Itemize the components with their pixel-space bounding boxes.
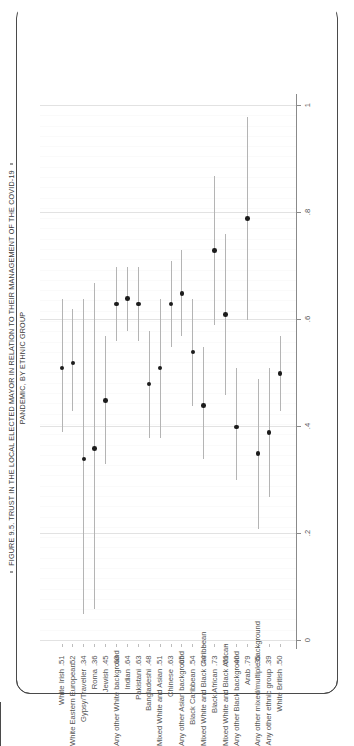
chart-category-value-label: .63 [112, 651, 121, 666]
chart-data-point [278, 371, 283, 376]
chart-category-label: Mixed White and Black African [221, 669, 230, 746]
chart-data-point [191, 350, 196, 355]
chart-category-value-label: .63 [166, 651, 175, 666]
chart-category-label: Indian [123, 669, 132, 746]
chart-data-point [147, 382, 152, 387]
chart-category-value-label: .73 [210, 651, 219, 666]
chart-data-point [60, 366, 65, 371]
chart-data-point [180, 291, 185, 296]
chart-category-tick [214, 644, 215, 647]
chart-category-tick [171, 644, 172, 647]
chart-category-label: Mixed White and Black Caribbean [199, 669, 208, 746]
chart-value-tick [297, 426, 301, 427]
chart-value-tick [297, 533, 301, 534]
chart-category-tick [236, 644, 237, 647]
chart-category-value-label: .64 [123, 651, 132, 666]
chart-category-value-label: .35 [253, 651, 262, 666]
chart-category-value-label: .34 [79, 651, 88, 666]
chart-value-tick-label: .8 [303, 205, 312, 219]
chart-category-value-label: .61 [221, 651, 230, 666]
chart-category-label: Pakistani [134, 669, 143, 746]
chart-category-rule [138, 106, 139, 641]
chart-category-tick [83, 644, 84, 647]
chart-data-point [234, 425, 239, 430]
chart-category-value-label: .44 [199, 651, 208, 666]
chart-value-tick [297, 105, 301, 106]
chart-data-point [136, 302, 141, 307]
chart-category-value-label: .65 [177, 651, 186, 666]
chart-data-point [201, 403, 206, 408]
chart-category-value-label: .52 [68, 651, 77, 666]
chart-data-point [71, 361, 76, 366]
chart-value-tick [297, 319, 301, 320]
chart-category-tick [269, 644, 270, 647]
chart-category-tick [94, 644, 95, 647]
chart-data-point [103, 398, 108, 403]
chart-category-tick [138, 644, 139, 647]
chart-category-value-label: .45 [101, 651, 110, 666]
chart-category-value-label: .48 [144, 651, 153, 666]
chart-category-label: Any other ethnic group [264, 669, 273, 746]
chart-category-tick [160, 644, 161, 647]
chart-category-label: Roma [90, 669, 99, 746]
chart-category-label: Any other mixed/multiple background [253, 669, 262, 746]
chart-category-tick [116, 644, 117, 647]
chart-value-tick-label: .6 [303, 312, 312, 326]
chart-category-rule [127, 106, 128, 641]
chart-category-label: White Irish [57, 669, 66, 746]
chart-category-tick [62, 644, 63, 647]
chart-category-tick [127, 644, 128, 647]
chart-data-point [92, 446, 97, 451]
chart-value-tick-label: .2 [303, 526, 312, 540]
chart-value-tick [297, 212, 301, 213]
chart-category-value-label: .40 [232, 651, 241, 666]
chart-category-label: Arab [243, 669, 252, 746]
chart-category-value-label: .36 [90, 651, 99, 666]
chart-value-tick-label: .4 [303, 419, 312, 433]
chart-category-rule [182, 106, 183, 641]
chart-data-point [82, 457, 87, 462]
chart-category-rule [171, 106, 172, 641]
chart-category-value-label: .39 [264, 651, 273, 666]
chart-category-value-label: .63 [134, 651, 143, 666]
chart-category-tick [192, 644, 193, 647]
chart-data-point [158, 366, 163, 371]
chart-category-label: Any other Black background [232, 669, 241, 746]
chart-category-tick [149, 644, 150, 647]
chart-data-point [245, 216, 250, 221]
chart-data-point [114, 302, 119, 307]
chart-value-tick-label: 1 [303, 98, 312, 112]
chart-category-label: Any other White background [112, 669, 121, 746]
chart-category-label: Chinese [166, 669, 175, 746]
chart-data-point [125, 296, 130, 301]
chart-data-point [267, 430, 272, 435]
chart-category-label: White Eastern European [68, 669, 77, 746]
chart-plot: 0.2.4.6.81White Irish.51White Eastern Eu… [0, 0, 354, 746]
chart-category-tick [247, 644, 248, 647]
chart-category-value-label: .51 [57, 651, 66, 666]
chart-category-tick [280, 644, 281, 647]
chart-category-label: Black African [210, 669, 219, 746]
chart-category-rule [258, 106, 259, 641]
rotated-figure-stage: FIGURE 9.5. TRUST IN THE LOCAL ELECTED M… [0, 0, 354, 746]
chart-category-rule [117, 106, 118, 641]
chart-plot-inner: 0.2.4.6.81White Irish.51White Eastern Eu… [0, 0, 354, 746]
chart-value-axis-line [296, 94, 297, 649]
chart-category-label: White British [275, 669, 284, 746]
chart-value-tick [297, 640, 301, 641]
chart-value-tick-label: 0 [303, 633, 312, 647]
chart-category-label: Jewish [101, 669, 110, 746]
chart-data-point [212, 248, 217, 253]
chart-category-value-label: .50 [275, 651, 284, 666]
chart-category-value-label: .54 [188, 651, 197, 666]
chart-category-value-label: .51 [155, 651, 164, 666]
chart-data-point [223, 312, 228, 317]
chart-category-tick [72, 644, 73, 647]
chart-category-tick [105, 644, 106, 647]
chart-category-label: Black Caribbean [188, 669, 197, 746]
chart-category-label: Gypsy/Traveller [79, 669, 88, 746]
chart-category-value-label: .79 [243, 651, 252, 666]
chart-category-label: Mixed White and Asian [155, 669, 164, 746]
chart-category-label: Any other Asian background [177, 669, 186, 746]
chart-category-tick [181, 644, 182, 647]
